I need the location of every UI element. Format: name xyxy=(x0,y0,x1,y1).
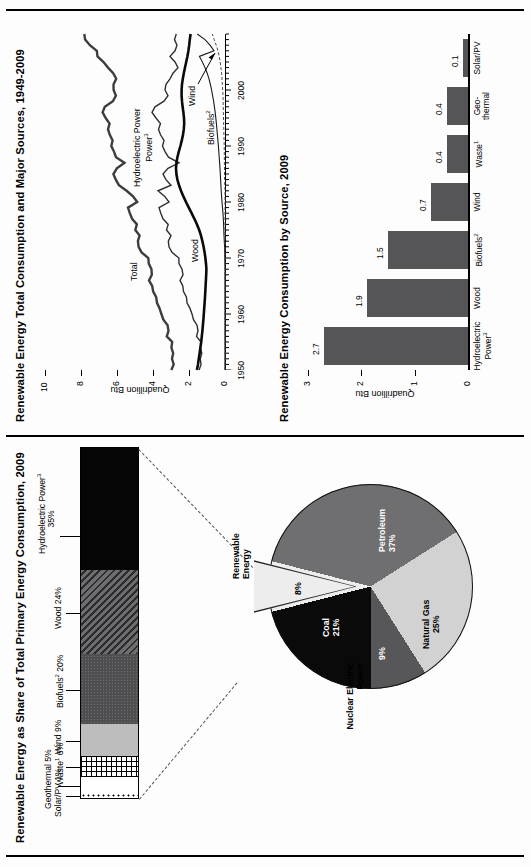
bar-category-wood: Wood xyxy=(473,270,482,326)
bar-category-solarpv: Solar/PV xyxy=(473,30,482,86)
bar-category-waste: Waste1 xyxy=(473,126,484,182)
series-biofuels xyxy=(197,34,225,370)
scanned-page-frame: Renewable Energy as Share of Total Prima… xyxy=(0,0,531,867)
stack-segment-hydroelectric[interactable] xyxy=(81,448,138,571)
bar-chart: Renewable Energy Consumption by Source, … xyxy=(268,11,531,436)
bar-waste[interactable] xyxy=(447,135,468,173)
line-chart: Renewable Energy Total Consumption and M… xyxy=(0,11,268,436)
bartick-3: 3 xyxy=(302,381,312,386)
stack-label-geothermal: Geothermal 5% xyxy=(44,749,53,809)
stack-segment-wood[interactable] xyxy=(81,571,138,655)
pie-value-coal: Coal 21% xyxy=(322,618,341,637)
leader-solarpv xyxy=(66,797,80,798)
renewable-stacked-bar xyxy=(80,447,139,799)
series-wind xyxy=(212,34,225,370)
pie-label-renewable-energy: RenewableEnergy xyxy=(232,499,252,579)
bar-value-hydroelectric: 2.7 xyxy=(311,343,321,355)
bar-value-solarpv: 0.1 xyxy=(450,55,460,67)
bartick-mark-1 xyxy=(415,370,416,376)
bartick-0: 0 xyxy=(462,381,472,386)
pie-value-renewable: 8% xyxy=(294,582,304,595)
bar-category-hydroelectric: Hydroelectric Power3 xyxy=(473,318,492,374)
leader-wind xyxy=(66,741,80,742)
bar-value-geothermal: 0.4 xyxy=(434,103,444,115)
line-chart-series xyxy=(0,11,268,436)
leader-hydroelectric xyxy=(60,536,80,537)
line-label-biofuels: Biofuels2 xyxy=(205,110,216,145)
bar-category-geothermal: Geo-thermal xyxy=(473,78,491,134)
leader-biofuels xyxy=(66,690,80,691)
pie-value-nuclear: 9% xyxy=(378,647,388,660)
right-panel: Renewable Energy Total Consumption and M… xyxy=(0,11,531,436)
bartick-2: 2 xyxy=(355,381,365,386)
series-hydroelectric xyxy=(152,34,202,370)
leader-wood xyxy=(66,613,80,614)
stack-segment-wind[interactable] xyxy=(81,725,138,757)
bar-wood[interactable] xyxy=(367,279,468,317)
pie-value-petroleum: Petroleum 37% xyxy=(378,509,397,552)
line-label-wood: Wood xyxy=(191,239,201,262)
pie-label-nuclear-electric-power: Nuclear ElectricPower xyxy=(346,663,365,753)
stack-label-hydroelectric: Hydroelectric Power335% xyxy=(36,484,57,554)
bar-value-waste: 0.4 xyxy=(434,151,444,163)
bar-value-biofuels: 1.5 xyxy=(375,247,385,259)
stack-segment-geothermal[interactable] xyxy=(81,777,138,795)
bar-wind[interactable] xyxy=(431,183,468,221)
bar-category-biofuels: Biofuels2 xyxy=(473,222,484,278)
pie-value-natural-gas: Natural Gas 25% xyxy=(422,600,441,649)
line-label-wind: Wind xyxy=(188,86,198,106)
line-label-total: Total xyxy=(130,262,140,281)
bartick-mark-2 xyxy=(361,370,362,376)
bar-category-wind: Wind xyxy=(473,174,482,230)
pie-chart: Petroleum 37% Natural Gas 25% 9% Coal 21… xyxy=(250,457,500,707)
stack-label-wood: Wood 24% xyxy=(54,587,63,629)
stack-label-wind: Wind 9% xyxy=(54,720,63,754)
bar-value-wind: 0.7 xyxy=(418,199,428,211)
bartick-1: 1 xyxy=(409,381,419,386)
bar-chart-ylabel: Quadrillion Btu xyxy=(335,389,435,399)
scanned-page: Renewable Energy as Share of Total Prima… xyxy=(0,0,531,867)
left-panel: Renewable Energy as Share of Total Prima… xyxy=(0,437,531,857)
line-label-hydroelectric: Hydroelectric Power Power3 xyxy=(133,108,154,187)
bar-geothermal[interactable] xyxy=(447,87,468,125)
wind-annotation-arrowhead xyxy=(209,53,216,60)
bar-value-wood: 1.9 xyxy=(354,295,364,307)
bartick-mark-3 xyxy=(308,370,309,376)
bar-hydroelectric[interactable] xyxy=(324,327,468,365)
bar-biofuels[interactable] xyxy=(388,231,468,269)
leader-waste xyxy=(66,767,80,768)
stack-segment-solarpv[interactable] xyxy=(81,795,138,799)
stack-segment-waste[interactable] xyxy=(81,756,138,777)
stack-label-biofuels: Biofuels2 20% xyxy=(54,654,65,708)
bar-chart-title: Renewable Energy Consumption by Source, … xyxy=(278,155,290,422)
series-total xyxy=(84,34,173,370)
bar-solarpv[interactable] xyxy=(463,39,468,77)
series-wood xyxy=(176,34,206,370)
stack-segment-biofuels[interactable] xyxy=(81,655,138,725)
bar-chart-xaxis xyxy=(468,34,470,370)
